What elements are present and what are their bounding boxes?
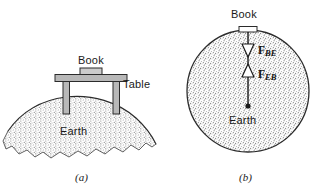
earth-center-dot — [245, 103, 250, 108]
force-symbol: F — [258, 44, 265, 56]
panel-a-caption: (a) — [75, 172, 88, 183]
book-label: Book — [231, 9, 257, 20]
book-object — [239, 27, 257, 33]
earth-label: Earth — [60, 126, 87, 137]
panel-a: Book Table Earth (a) — [0, 0, 163, 194]
table-label: Table — [123, 79, 150, 90]
force-label-bc-be: FBE — [258, 45, 277, 57]
force-label-eb: FEB — [258, 69, 277, 81]
book-label: Book — [78, 55, 104, 66]
newtons-third-law-figure: Book Table Earth (a) — [0, 0, 325, 194]
panel-b: Book FBE FEB Earth (b) — [163, 0, 325, 194]
earth-label: Earth — [229, 115, 256, 126]
book-object — [80, 68, 102, 75]
force-symbol: F — [258, 68, 265, 80]
force-subscript: EB — [265, 72, 277, 82]
panel-b-artwork — [163, 0, 325, 194]
panel-b-caption: (b) — [239, 172, 252, 183]
panel-a-artwork — [0, 0, 163, 194]
force-subscript: BE — [265, 48, 277, 58]
